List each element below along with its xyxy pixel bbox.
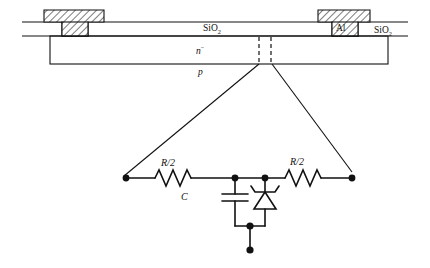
left-contact-plug <box>62 22 88 36</box>
circuit-nodes <box>123 175 356 254</box>
label-oxide-middle: SiO2 <box>203 24 221 35</box>
figure-root: SiO2 Al SiO2 n− p R/2 R/2 C <box>0 0 430 268</box>
label-n-region: n− <box>196 45 204 57</box>
junction-dashed-region <box>259 37 271 63</box>
label-resistor-right: R/2 <box>290 157 304 167</box>
figure-drawing <box>0 0 430 268</box>
node-diode-top <box>262 175 269 182</box>
left-contact <box>44 10 104 36</box>
node-bottom <box>246 222 253 229</box>
label-p-region: p <box>198 68 203 78</box>
node-capacitor-top <box>232 175 239 182</box>
semiconductor-body <box>50 36 388 64</box>
resistor-right <box>285 170 321 186</box>
label-capacitor: C <box>181 192 188 202</box>
label-oxide-right: SiO2 <box>374 26 392 37</box>
label-metal-al: Al <box>336 24 346 34</box>
terminal-right <box>349 175 356 182</box>
resistor-left <box>155 170 191 186</box>
terminal-ground <box>246 246 253 253</box>
leader-line-right <box>272 64 352 172</box>
callout-leader-lines <box>124 64 352 176</box>
terminal-left <box>123 175 130 182</box>
leader-line-left <box>124 64 259 176</box>
equivalent-circuit-group <box>126 170 352 250</box>
n-region-box <box>50 36 388 64</box>
diode-triangle <box>254 192 276 209</box>
label-resistor-left: R/2 <box>161 158 175 168</box>
